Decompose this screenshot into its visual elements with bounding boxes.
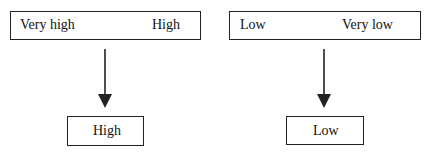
left-top-box: Very high High	[10, 11, 201, 40]
left-result-box: High	[67, 116, 144, 146]
right-top-label-low: Low	[240, 17, 266, 33]
right-result-box: Low	[286, 116, 364, 145]
right-top-box: Low Very low	[229, 11, 421, 40]
right-down-arrow-icon	[314, 48, 334, 110]
right-result-label: Low	[313, 123, 339, 139]
left-top-label-high: High	[152, 17, 180, 33]
left-result-label: High	[93, 123, 121, 139]
right-top-label-very-low: Very low	[342, 17, 393, 33]
left-top-label-very-high: Very high	[20, 17, 75, 33]
left-down-arrow-icon	[95, 48, 115, 110]
